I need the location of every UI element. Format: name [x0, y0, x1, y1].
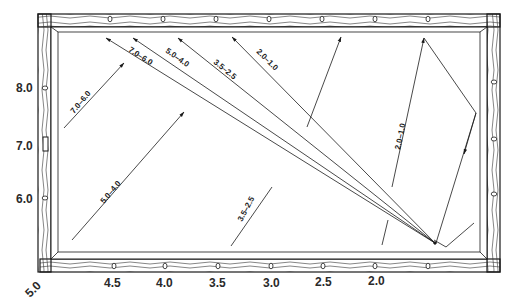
pool-table-diagram: 8.0 7.0 6.0 5.0 4.5 4.0 3.5 3.0 2.5 2.0 … — [0, 0, 517, 304]
bottom-label-2.5: 2.5 — [315, 275, 332, 289]
side-pocket — [43, 137, 48, 151]
bottom-label-4.5: 4.5 — [104, 276, 121, 290]
right-rail — [487, 14, 500, 272]
bottom-label-3.5: 3.5 — [209, 276, 226, 290]
bottom-label-2.0: 2.0 — [368, 274, 385, 288]
left-label-6: 6.0 — [16, 192, 33, 206]
left-label-7: 7.0 — [16, 139, 33, 153]
corner-label: 5.0 — [22, 278, 44, 300]
left-label-8: 8.0 — [16, 81, 33, 95]
cue-ball-point — [434, 242, 437, 245]
bottom-label-3.0: 3.0 — [263, 276, 280, 290]
bottom-label-4.0: 4.0 — [156, 276, 173, 290]
table-rails — [38, 14, 500, 272]
